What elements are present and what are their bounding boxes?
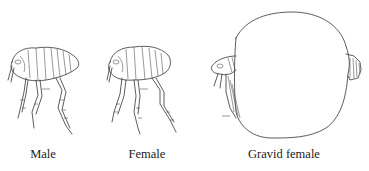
label-female: Female [129, 147, 166, 162]
label-gravid-female: Gravid female [248, 147, 320, 162]
flea-drawings [0, 0, 369, 171]
female-flea-drawing [107, 46, 176, 134]
flea-figure: Male Female Gravid female [0, 0, 369, 171]
gravid-female-drawing [211, 12, 361, 138]
label-male: Male [30, 147, 56, 162]
male-flea-drawing [8, 47, 79, 134]
